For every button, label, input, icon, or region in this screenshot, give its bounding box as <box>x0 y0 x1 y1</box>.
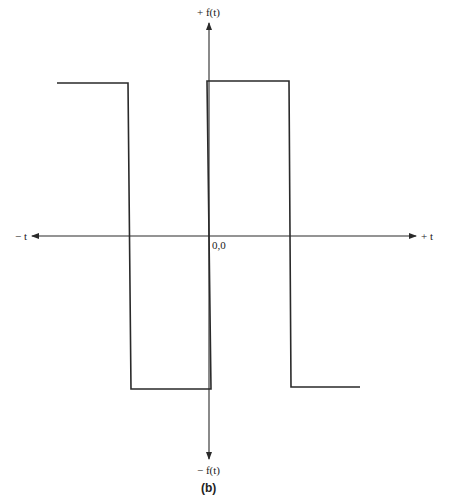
y-axis-positive-label: + f(t) <box>197 6 220 19</box>
origin-label: 0,0 <box>212 239 226 251</box>
x-axis-negative-label: − t <box>15 230 27 242</box>
y-axis-negative-label: − f(t) <box>197 464 220 477</box>
x-axis-positive-label: + t <box>421 230 433 242</box>
square-wave-diagram: + f(t) − f(t) − t + t 0,0 (b) <box>0 0 449 501</box>
figure-caption: (b) <box>201 481 216 495</box>
